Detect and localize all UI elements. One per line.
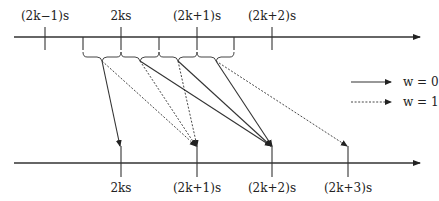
arrow-solid-0-to-2ks	[102, 61, 120, 146]
top-label-0: (2k−1)s	[21, 9, 69, 23]
arrow-solid-1-to-2k2s	[140, 61, 271, 146]
brace-0	[83, 52, 121, 61]
top-label-3: (2k+2)s	[248, 9, 296, 23]
bottom-label-1: (2k+1)s	[173, 181, 221, 195]
top-label-1: 2ks	[110, 9, 131, 23]
brace-1	[121, 52, 159, 61]
bottom-label-3: (2k+3)s	[324, 181, 372, 195]
legend-label-dotted: w = 1	[403, 95, 439, 109]
bottom-label-2: (2k+2)s	[248, 181, 296, 195]
legend-label-solid: w = 0	[403, 75, 439, 89]
brace-3	[197, 52, 234, 61]
brace-2	[159, 52, 197, 61]
bottom-label-0: 2ks	[110, 181, 131, 195]
timing-diagram: (2k−1)s 2ks (2k+1)s (2k+2)s 2ks (2k+1)s …	[0, 0, 439, 201]
arrow-dotted-0-to-2k1s	[102, 61, 196, 146]
legend: w = 0 w = 1	[351, 75, 439, 109]
arrow-dotted-3-to-2k3s	[216, 61, 347, 146]
top-label-2: (2k+1)s	[173, 9, 221, 23]
